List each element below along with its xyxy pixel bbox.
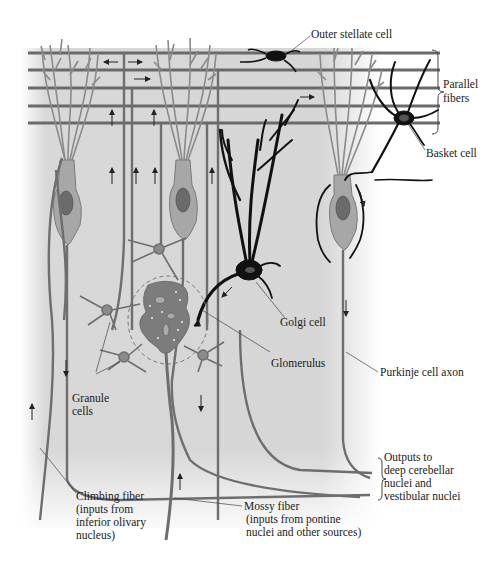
label-mossy-fiber-line3: nuclei and other sources) [246, 526, 361, 539]
cerebellar-circuit-diagram: Outer stellate cell Parallel fibers Bask… [0, 0, 498, 564]
label-mossy-fiber-line1: Mossy fiber [244, 500, 299, 513]
label-basket-cell: Basket cell [426, 147, 477, 160]
label-parallel-fibers-line2: fibers [443, 92, 469, 105]
label-outputs-line1: Outputs to [384, 451, 432, 464]
label-outer-stellate-cell: Outer stellate cell [311, 28, 392, 41]
label-climbing-fiber-line2: (inputs from [76, 503, 133, 516]
label-outputs-line2: deep cerebellar [384, 464, 454, 477]
label-climbing-fiber-line4: nucleus) [76, 529, 115, 542]
label-mossy-fiber-line2: (inputs from pontine [246, 513, 341, 526]
label-granule-cells-line2: cells [72, 405, 93, 418]
label-climbing-fiber-line3: inferior olivary [76, 516, 146, 529]
label-climbing-fiber-line1: Climbing fiber [76, 490, 144, 503]
label-glomerulus: Glomerulus [271, 357, 325, 370]
label-granule-cells-line1: Granule [72, 392, 109, 405]
label-parallel-fibers-line1: Parallel [443, 78, 478, 91]
label-golgi-cell: Golgi cell [280, 316, 326, 329]
label-purkinje-cell-axon: Purkinje cell axon [380, 366, 464, 379]
label-outputs-line3: nuclei and [384, 477, 432, 490]
label-outputs-line4: vestibular nuclei [384, 490, 460, 503]
